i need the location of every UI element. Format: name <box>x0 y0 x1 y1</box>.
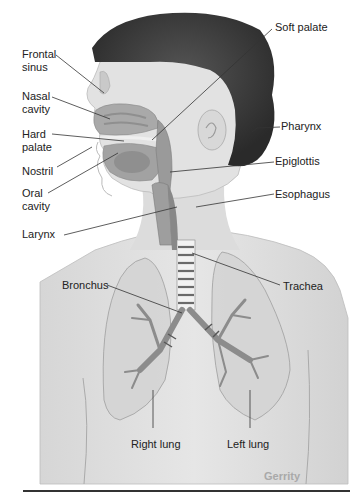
label-frontal-sinus: Frontal sinus <box>22 48 56 74</box>
label-hard-palate: Hard palate <box>22 128 52 154</box>
label-pharynx: Pharynx <box>281 120 321 133</box>
label-left-lung: Left lung <box>227 438 269 451</box>
label-larynx: Larynx <box>22 228 55 241</box>
label-esophagus: Esophagus <box>275 188 330 201</box>
label-nostril: Nostril <box>22 165 53 178</box>
label-epiglottis: Epiglottis <box>275 155 320 168</box>
ear <box>198 110 226 150</box>
label-nasal-cavity: Nasal cavity <box>22 90 50 116</box>
label-oral-cavity: Oral cavity <box>22 187 50 213</box>
illustrator-credit: Gerrity <box>264 470 300 482</box>
trachea-shape <box>177 240 195 310</box>
bottom-divider <box>23 490 350 492</box>
label-right-lung: Right lung <box>131 438 181 451</box>
label-soft-palate: Soft palate <box>275 21 328 34</box>
label-trachea: Trachea <box>283 280 323 293</box>
label-bronchus: Bronchus <box>62 279 108 292</box>
respiratory-illustration <box>0 0 364 504</box>
